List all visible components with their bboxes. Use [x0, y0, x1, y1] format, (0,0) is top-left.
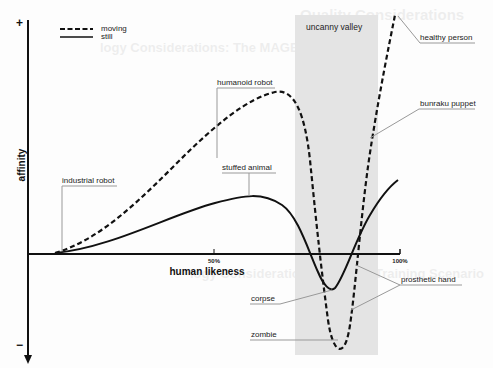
y-axis-minus: −	[16, 338, 23, 352]
diagram-canvas: Quality Considerations logy Consideratio…	[0, 0, 493, 368]
humanoid-robot-label: humanoid robot	[217, 78, 273, 87]
x-tick-label-100: 100%	[392, 258, 408, 264]
x-tick-label-50: 50%	[208, 258, 221, 264]
legend: moving still	[60, 24, 127, 41]
industrial-robot-label: industrial robot	[62, 176, 115, 185]
bleed-through-text: Quality Considerations logy Consideratio…	[100, 6, 484, 281]
bunraku-puppet-leader	[370, 109, 475, 138]
uncanny-valley-diagram: Quality Considerations logy Consideratio…	[0, 0, 493, 368]
y-axis-label: affinity	[16, 148, 27, 181]
annotations: industrial robot humanoid robot stuffed …	[62, 16, 476, 340]
uncanny-valley-label: uncanny valley	[306, 22, 363, 32]
healthy-person-label: healthy person	[420, 33, 472, 42]
stuffed-animal-label: stuffed animal	[222, 163, 272, 172]
corpse-label: corpse	[251, 294, 276, 303]
y-axis-arrow-icon	[24, 355, 32, 364]
y-axis-plus: +	[16, 16, 23, 30]
x-axis-label: human likeness	[169, 266, 244, 277]
prosthetic-hand-label: prosthetic hand	[401, 275, 456, 284]
zombie-label: zombie	[251, 330, 277, 339]
legend-still-label: still	[101, 32, 113, 41]
bunraku-puppet-label: bunraku puppet	[420, 99, 476, 108]
